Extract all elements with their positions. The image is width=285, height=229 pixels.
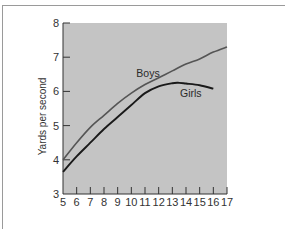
- x-tick-label: 13: [166, 196, 178, 208]
- x-tick-label: 14: [180, 196, 192, 208]
- boys-label: Boys: [136, 67, 159, 79]
- x-tick-label: 11: [139, 196, 150, 208]
- y-axis-title: Yards per second: [37, 78, 48, 156]
- y-tick-label: 6: [53, 85, 59, 97]
- x-tick-label: 17: [221, 196, 233, 208]
- y-tick-label: 4: [53, 154, 59, 166]
- x-tick-label: 15: [194, 196, 206, 208]
- x-tick-label: 12: [153, 196, 165, 208]
- x-tick-label: 6: [74, 196, 80, 208]
- girls-label: Girls: [180, 87, 202, 99]
- x-tick-label: 9: [115, 196, 121, 208]
- line-chart: 345678 567891011121314151617 Boys Girls …: [0, 0, 285, 229]
- x-tick-label: 10: [125, 196, 137, 208]
- x-tick-label: 7: [87, 196, 93, 208]
- x-tick-label: 16: [207, 196, 219, 208]
- y-tick-label: 8: [53, 17, 59, 29]
- x-tick-label: 5: [60, 196, 66, 208]
- x-tick-label: 8: [101, 196, 107, 208]
- y-tick-label: 5: [53, 120, 59, 132]
- plot-area: [63, 23, 227, 194]
- y-tick-label: 3: [53, 188, 59, 200]
- y-tick-label: 7: [53, 51, 59, 63]
